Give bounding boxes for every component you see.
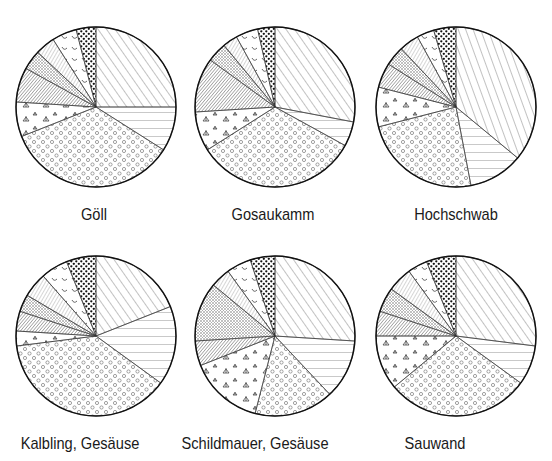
pie-slice-diag-fwd <box>456 256 536 346</box>
pie-sauwand <box>376 256 536 416</box>
pie-slice-diag-fwd <box>96 27 176 107</box>
pie-slice-diag-fwd <box>275 27 355 122</box>
chart-label-sauwand: Sauwand <box>405 434 466 454</box>
pie-schildmauer-ges-use <box>195 256 355 416</box>
chart-label-hochschwab: Hochschwab <box>414 205 498 225</box>
chart-label-gosaukamm: Gosaukamm <box>232 205 315 225</box>
chart-label-schildmauer: Schildmauer, Gesäuse <box>181 434 328 454</box>
pie-gosaukamm <box>195 27 355 187</box>
pie-slice-diag-fwd <box>275 256 355 341</box>
pie-chart-grid: Göll Gosaukamm Hochschwab Kalbling, Gesä… <box>0 0 552 461</box>
chart-label-kalbling: Kalbling, Gesäuse <box>21 434 140 454</box>
chart-label-goll: Göll <box>81 205 107 225</box>
pie-g-ll <box>16 27 176 187</box>
pie-hochschwab <box>376 27 536 187</box>
pie-charts-canvas <box>0 0 552 461</box>
pie-kalbling-ges-use <box>16 256 176 416</box>
